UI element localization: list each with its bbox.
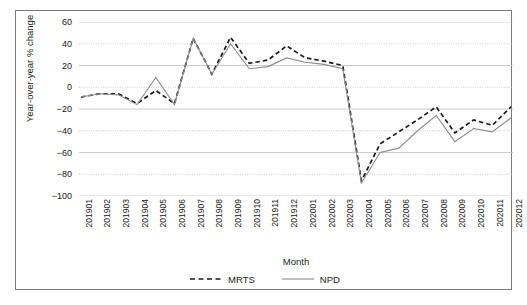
x-axis-tick-labels: 2019012019022019032019042019052019062019…: [79, 199, 513, 259]
y-axis-tick-label: 60: [62, 18, 72, 27]
series-lines: [81, 37, 511, 183]
x-axis-title: Month: [79, 256, 513, 267]
y-axis-tick-labels: 6040200−20−40−60−80−100: [16, 22, 72, 196]
y-axis-tick-label: −40: [57, 126, 72, 135]
x-axis-tick-label: 201902: [103, 199, 112, 227]
x-axis-tick-label: 202010: [477, 199, 486, 227]
x-axis-tick-label: 201905: [159, 199, 168, 227]
x-axis-tick-label: 202007: [421, 199, 430, 227]
x-axis-tick-label: 201901: [85, 199, 94, 227]
x-axis-tick-label: 201904: [141, 199, 150, 227]
x-axis-tick-label: 202009: [458, 199, 467, 227]
x-axis-tick-label: 201907: [197, 199, 206, 227]
y-axis-tick-label: −20: [57, 105, 72, 114]
y-axis-tick-label: −80: [57, 170, 72, 179]
y-axis-tick-label: −100: [52, 192, 72, 201]
y-axis-tick-label: 20: [62, 61, 72, 70]
y-axis-tick-label: 40: [62, 39, 72, 48]
chart-figure: Year-over-year % change 6040200−20−40−60…: [15, 10, 512, 290]
x-axis-tick-label: 202008: [440, 199, 449, 227]
x-axis-tick-label: 201912: [290, 199, 299, 227]
x-axis-tick-label: 202005: [384, 199, 393, 227]
x-axis-tick-label: 202003: [346, 199, 355, 227]
x-axis-tick-label: 201908: [215, 199, 224, 227]
legend-label: MRTS: [228, 274, 255, 285]
legend-swatch-npd-icon: [281, 274, 315, 285]
x-axis-tick-label: 202011: [496, 199, 505, 227]
x-axis-tick-label: 202001: [309, 199, 318, 227]
chart-svg: [79, 22, 513, 196]
chart-legend: MRTSNPD: [16, 274, 513, 285]
x-axis-tick-label: 202004: [365, 199, 374, 227]
legend-item-mrts[interactable]: MRTS: [189, 274, 255, 285]
legend-label: NPD: [320, 274, 340, 285]
legend-swatch-mrts-icon: [189, 274, 223, 285]
series-line-npd: [81, 38, 511, 183]
x-axis-tick-label: 201911: [271, 199, 280, 227]
x-axis-tick-label: 202002: [328, 199, 337, 227]
legend-item-npd[interactable]: NPD: [281, 274, 340, 285]
x-axis-tick-label: 202012: [515, 199, 524, 227]
x-axis-tick-label: 201906: [178, 199, 187, 227]
plot-area: [79, 22, 513, 196]
x-axis-tick-label: 201910: [253, 199, 262, 227]
x-axis-tick-label: 201909: [234, 199, 243, 227]
y-axis-tick-label: −60: [57, 148, 72, 157]
x-axis-tick-label: 201903: [122, 199, 131, 227]
x-axis-tick-label: 202006: [402, 199, 411, 227]
gridlines: [79, 22, 513, 196]
y-axis-tick-label: 0: [67, 83, 72, 92]
